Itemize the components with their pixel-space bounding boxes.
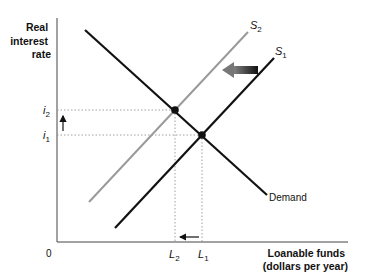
y-tick-i1: i1	[43, 129, 50, 144]
s2-label: S2	[250, 19, 262, 34]
y-axis-label: Real interest rate	[10, 21, 51, 60]
supply-curve-s1	[115, 58, 274, 228]
supply-shift-arrow-icon	[222, 62, 258, 78]
x-tick-l2: L2	[169, 248, 180, 263]
supply-curve-s2	[89, 32, 248, 202]
equilibrium-point-e1	[198, 131, 206, 139]
x-axis-label: Loanable funds (dollars per year)	[263, 247, 348, 272]
equilibrium-point-e2	[171, 106, 179, 114]
origin-label: 0	[46, 248, 52, 259]
s1-label: S1	[275, 45, 287, 60]
y-tick-i2: i2	[43, 104, 50, 119]
x-tick-l1: L1	[198, 248, 209, 263]
demand-label: Demand	[269, 192, 307, 203]
guide-lines	[57, 110, 202, 242]
loanable-funds-diagram: Real interest rate i2 i1 L2 L1 0 Loanabl…	[0, 0, 365, 280]
